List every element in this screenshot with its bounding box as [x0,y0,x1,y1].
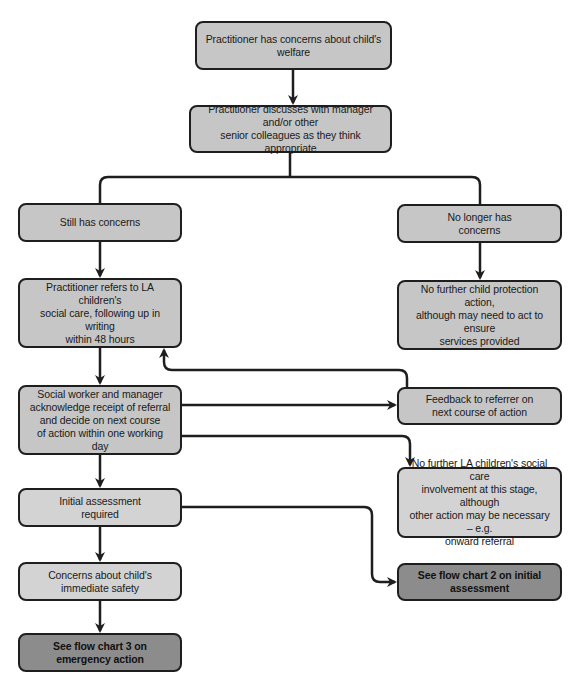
node-initial-assessment-required: Initial assessment required [18,488,182,527]
edge-branch-nolonger [290,177,480,204]
node-label: See flow chart 3 on emergency action [53,640,147,666]
node-practitioner-refers: Practitioner refers to LA children's soc… [18,278,182,348]
edge-branch-still [100,177,290,203]
node-no-longer-has-concerns: No longer has concerns [397,204,562,243]
edge-feedback-refers [164,350,407,387]
flowchart-canvas: Practitioner has concerns about child's … [0,0,578,684]
node-label: Feedback to referrer on next course of a… [426,393,533,419]
edge-initial-flowchart2 [182,507,395,582]
node-label: Practitioner has concerns about child's … [205,33,382,59]
node-label: Still has concerns [60,216,141,229]
node-no-further-child-protection: No further child protection action, alth… [397,280,562,350]
node-label: Social worker and manager acknowledge re… [28,388,172,453]
node-social-worker-acknowledge: Social worker and manager acknowledge re… [18,385,182,455]
node-still-has-concerns: Still has concerns [18,203,182,242]
node-immediate-safety: Concerns about child's immediate safety [18,562,182,601]
node-label: Practitioner refers to LA children's soc… [28,281,172,346]
node-no-further-la-involvement: No further LA children's social care inv… [397,467,562,538]
node-concerns-about-welfare: Practitioner has concerns about child's … [195,21,392,70]
node-label: Initial assessment required [59,495,141,521]
node-label: No further child protection action, alth… [407,283,552,348]
node-discusses-with-manager: Practitioner discusses with manager and/… [189,105,392,153]
node-label: Concerns about child's immediate safety [48,569,152,595]
node-label: See flow chart 2 on initial assessment [418,569,541,595]
node-label: No longer has concerns [447,211,511,237]
node-see-flow-chart-3: See flow chart 3 on emergency action [18,633,182,672]
node-feedback-to-referrer: Feedback to referrer on next course of a… [397,387,562,425]
node-see-flow-chart-2: See flow chart 2 on initial assessment [397,563,562,601]
node-label: No further LA children's social care inv… [407,457,552,548]
node-label: Practitioner discusses with manager and/… [199,103,382,155]
edge-socialworker-nofurtherla [182,436,410,465]
